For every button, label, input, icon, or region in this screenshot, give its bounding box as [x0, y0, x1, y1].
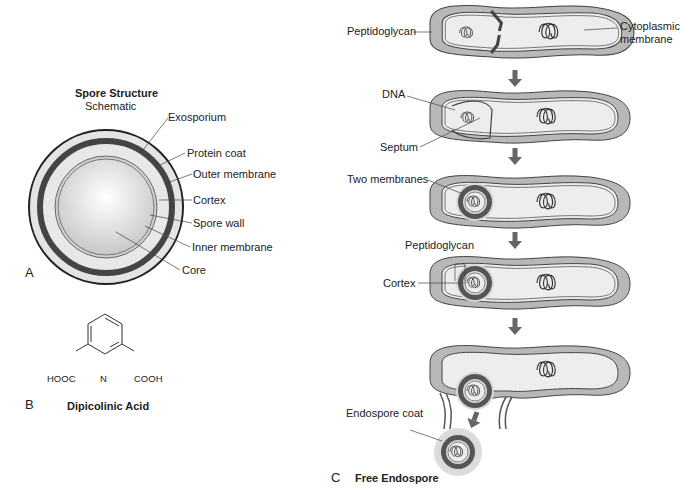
arrow-4: [508, 318, 522, 335]
label-spore-wall: Spore wall: [193, 217, 244, 229]
arrow-1: [508, 70, 522, 87]
label-protein-coat: Protein coat: [187, 147, 246, 159]
label-membrane: membrane: [620, 33, 673, 45]
arrow-3: [508, 232, 522, 249]
label-cytoplasmic: Cytoplasmic: [620, 20, 680, 32]
label-n: N: [100, 373, 107, 384]
release-arrow: [465, 410, 484, 431]
panel-c-letter: C: [331, 470, 340, 485]
label-peptidoglycan-top: Peptidoglycan: [347, 25, 416, 37]
panel-c-title: Free Endospore: [355, 472, 439, 484]
label-two-membranes: Two membranes: [347, 173, 428, 185]
label-endospore-coat: Endospore coat: [346, 407, 423, 419]
label-dna: DNA: [382, 88, 405, 100]
diagram-canvas: [0, 0, 680, 495]
stage-1-cell: [430, 6, 634, 59]
label-hooc: HOOC: [47, 373, 76, 384]
label-exosporium: Exosporium: [168, 111, 226, 123]
panel-a-letter: A: [25, 265, 34, 280]
stage-3-cell: [430, 176, 630, 229]
label-core: Core: [182, 264, 206, 276]
label-outer-membrane: Outer membrane: [193, 168, 276, 180]
label-cortex-c: Cortex: [383, 277, 415, 289]
panel-a-title: Spore Structure: [75, 87, 158, 99]
label-cooh: COOH: [134, 373, 163, 384]
panel-b-letter: B: [25, 397, 34, 412]
label-peptidoglycan-cortex: Peptidoglycan: [405, 239, 474, 251]
panel-a-subtitle: Schematic: [85, 100, 136, 112]
dipicolinic-acid-structure: [76, 314, 134, 354]
free-endospore: [434, 428, 482, 476]
arrow-2: [508, 148, 522, 165]
label-cortex: Cortex: [193, 194, 225, 206]
label-inner-membrane: Inner membrane: [192, 241, 273, 253]
panel-b-title: Dipicolinic Acid: [67, 400, 149, 412]
label-septum: Septum: [380, 141, 418, 153]
stage-2-cell: [430, 91, 630, 144]
stage-5-cell: [430, 346, 630, 429]
spore-schematic: [29, 118, 192, 284]
